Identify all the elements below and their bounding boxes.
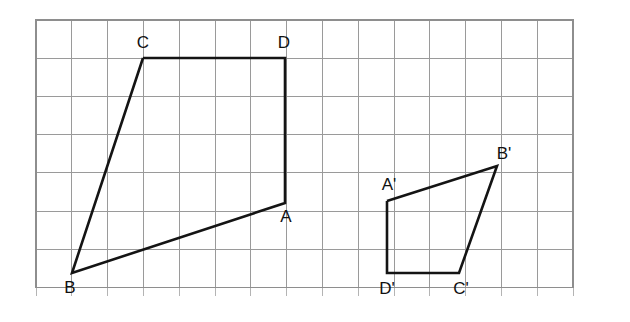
label-c: C: [137, 33, 149, 52]
figure-canvas: CDABA'B'C'D': [0, 0, 630, 322]
label-d-prime: D': [379, 279, 395, 298]
label-a-prime: A': [382, 175, 397, 194]
label-b-prime: B': [497, 144, 512, 163]
vertex-label-layer: CDABA'B'C'D': [64, 33, 511, 298]
label-d: D: [278, 33, 290, 52]
shape-layer: [72, 58, 497, 273]
label-a: A: [280, 207, 292, 226]
grid-border: [36, 20, 573, 287]
quadrilateral-a-prime-b-prime-c-prime-d-prime: [387, 166, 497, 273]
label-b: B: [64, 278, 75, 297]
label-c-prime: C': [453, 279, 469, 298]
geometry-figure: CDABA'B'C'D': [0, 0, 630, 322]
quadrilateral-abcd: [72, 58, 285, 273]
coordinate-grid: [36, 20, 573, 296]
